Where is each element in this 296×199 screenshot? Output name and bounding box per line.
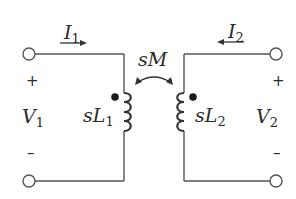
inductor-label-l1: sL1	[83, 106, 114, 128]
terminal-right-bottom	[270, 175, 282, 187]
voltage-label-v1: V1	[22, 107, 44, 129]
polarity-minus-right: –	[273, 146, 281, 161]
mutual-inductance-label: sM	[138, 50, 167, 69]
polarity-dot-l1	[111, 93, 119, 101]
current-label-i2: I2	[228, 22, 244, 44]
mutual-arrowhead-right	[166, 77, 173, 85]
current-label-i1: I1	[64, 23, 80, 45]
inductor-label-l2: sL2	[195, 106, 226, 128]
polarity-minus-left: –	[27, 146, 35, 161]
polarity-plus-left: +	[26, 74, 39, 89]
voltage-label-v2: V2	[256, 107, 278, 129]
polarity-dot-l2	[189, 93, 197, 101]
circuit-drawing	[0, 0, 296, 199]
arrowhead-i1	[80, 40, 87, 46]
polarity-plus-right: +	[272, 74, 285, 89]
terminal-left-bottom	[23, 175, 35, 187]
inductor-l1-coil	[124, 93, 131, 131]
arrowhead-i2	[217, 39, 224, 45]
terminal-right-top	[270, 48, 282, 60]
mutual-coupling-arc	[138, 77, 170, 82]
coupled-inductor-diagram: I1 I2 sM V1 V2 sL1 sL2 + – + –	[0, 0, 296, 199]
inductor-l2-coil	[177, 93, 184, 131]
mutual-arrowhead-left	[135, 77, 142, 85]
terminal-left-top	[23, 48, 35, 60]
